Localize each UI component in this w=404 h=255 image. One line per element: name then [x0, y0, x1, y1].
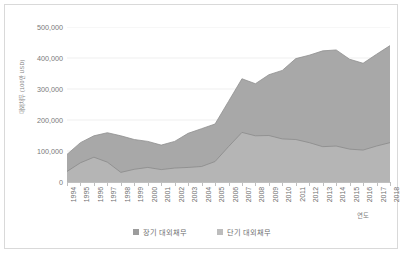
x-axis-tick	[255, 182, 256, 186]
legend-label: 단기 대외채무	[227, 227, 271, 237]
x-axis-tick-label: 2011	[299, 187, 306, 202]
x-axis-tick	[242, 182, 243, 186]
x-axis-title: 연도	[357, 211, 369, 220]
x-axis-tick	[229, 182, 230, 186]
x-axis-tick-label: 1994	[70, 187, 77, 202]
x-axis-tick-label: 2005	[218, 187, 225, 202]
x-axis-tick	[350, 182, 351, 186]
y-axis-tick-label: 500,000	[11, 23, 63, 32]
x-axis-tick-label: 2001	[164, 187, 171, 202]
x-axis-tick-label: 2000	[151, 187, 158, 202]
x-axis-tick	[188, 182, 189, 186]
legend-item[interactable]: 단기 대외채무	[217, 227, 271, 237]
x-axis-tick	[67, 182, 68, 186]
x-axis-tick-label: 2007	[245, 187, 252, 202]
x-axis-tick-label: 2006	[232, 187, 239, 202]
y-axis-tick-label: 0	[11, 178, 63, 187]
area-chart-svg	[67, 27, 390, 182]
x-axis-tick	[390, 182, 391, 186]
x-axis-tick	[282, 182, 283, 186]
y-axis-tick-labels: 500,000400,000300,000200,000100,0000	[5, 27, 63, 182]
x-axis-tick	[309, 182, 310, 186]
x-axis-tick-label: 2002	[178, 187, 185, 202]
x-axis-tick-label: 1998	[124, 187, 131, 202]
x-axis-tick-label: 2004	[205, 187, 212, 202]
legend-swatch-icon	[217, 229, 223, 235]
chart-container: 대외채무 (100만 USD) 500,000400,000300,000200…	[4, 4, 398, 249]
x-axis-tick	[202, 182, 203, 186]
x-axis-tick-label: 2012	[312, 187, 319, 202]
x-axis-tick	[148, 182, 149, 186]
x-axis-tick-label: 2018	[393, 187, 400, 202]
x-axis-tick	[323, 182, 324, 186]
y-axis-tick-label: 300,000	[11, 85, 63, 94]
x-axis-tick	[175, 182, 176, 186]
x-axis-tick	[107, 182, 108, 186]
x-axis-tick-label: 2015	[353, 187, 360, 202]
x-axis-tick	[215, 182, 216, 186]
x-axis-tick	[377, 182, 378, 186]
y-axis-tick-label: 400,000	[11, 54, 63, 63]
x-axis-tick	[121, 182, 122, 186]
x-axis-tick-label: 2016	[366, 187, 373, 202]
x-axis-tick-label: 2017	[380, 187, 387, 202]
x-axis-tick-labels: 1994199519961997199819992000200120022003…	[67, 187, 390, 223]
x-axis-tick	[80, 182, 81, 186]
y-axis-tick-label: 200,000	[11, 116, 63, 125]
legend-item[interactable]: 장기 대외채무	[133, 227, 187, 237]
x-axis-tick	[161, 182, 162, 186]
x-axis-tick-label: 2010	[285, 187, 292, 202]
x-axis-tick	[336, 182, 337, 186]
x-axis-tick-label: 2008	[258, 187, 265, 202]
x-axis-tick	[363, 182, 364, 186]
legend-label: 장기 대외채무	[143, 227, 187, 237]
x-axis-tick	[269, 182, 270, 186]
x-axis-tick-label: 1999	[137, 187, 144, 202]
plot-area	[67, 27, 390, 182]
x-axis-tick-label: 2013	[326, 187, 333, 202]
x-axis-tick	[134, 182, 135, 186]
x-axis-tick	[94, 182, 95, 186]
x-axis-tick-label: 1996	[97, 187, 104, 202]
x-axis-tick-label: 2003	[191, 187, 198, 202]
x-axis-tick-label: 1995	[83, 187, 90, 202]
y-axis-tick-label: 100,000	[11, 147, 63, 156]
x-axis-tick-label: 2014	[339, 187, 346, 202]
chart-legend: 장기 대외채무단기 대외채무	[5, 227, 399, 237]
x-axis-tick-label: 1997	[110, 187, 117, 202]
x-axis-tick-label: 2009	[272, 187, 279, 202]
x-axis-tick	[296, 182, 297, 186]
legend-swatch-icon	[133, 229, 139, 235]
